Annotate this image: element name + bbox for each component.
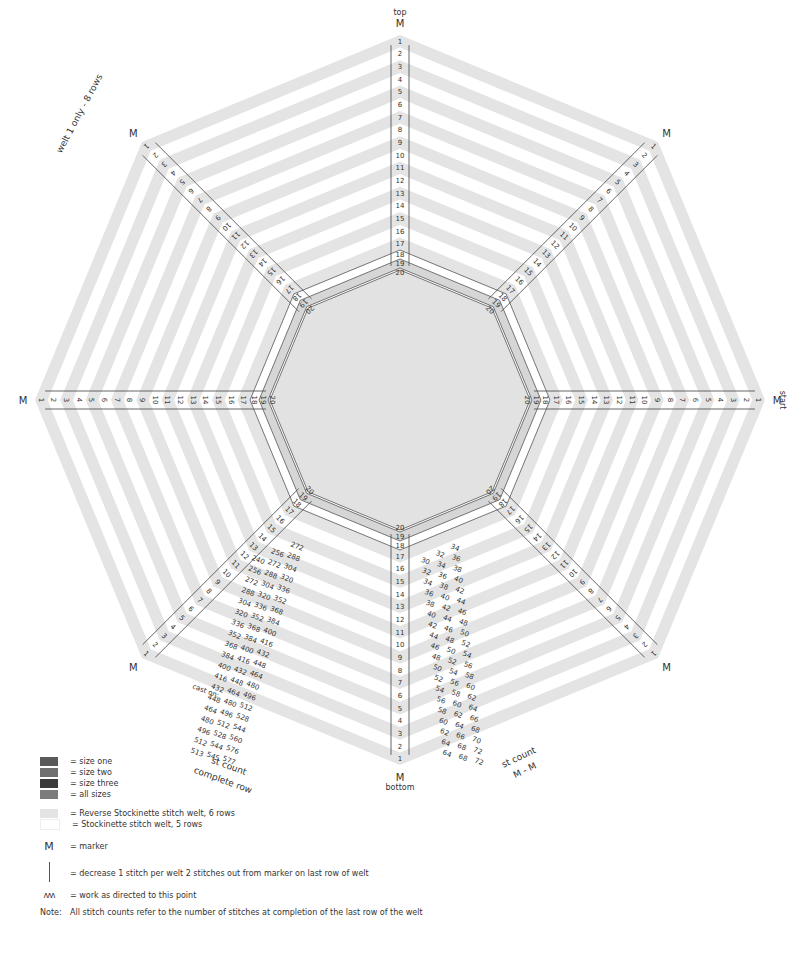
size-label: = size one: [70, 757, 112, 766]
row-number: 19: [396, 260, 405, 268]
row-number: 6: [398, 101, 403, 109]
marker-label: M: [396, 18, 405, 29]
st-count-mm-value: 68: [456, 742, 467, 753]
st-count-complete-value: 576: [225, 744, 241, 757]
row-number: 3: [398, 63, 402, 71]
row-number: 4: [398, 717, 403, 725]
welt-row: = Reverse Stockinette stitch welt, 6 row…: [40, 808, 423, 819]
st-count-mm-value: 64: [441, 748, 453, 759]
st-count-complete-value: 528: [235, 712, 250, 724]
row-number: 1: [754, 398, 762, 402]
row-number: 11: [396, 164, 405, 172]
row-number: 3: [729, 398, 737, 402]
row-number: 2: [742, 398, 750, 402]
row-number: 8: [398, 126, 402, 134]
marker-label: M: [662, 662, 671, 673]
size-label: = size three: [70, 779, 118, 788]
row-number: 12: [176, 396, 184, 405]
row-number: 16: [564, 396, 572, 405]
row-number: 20: [523, 396, 531, 405]
arrowheads-icon: ʌʌʌ: [40, 891, 58, 900]
size-swatch: [40, 768, 58, 777]
row-number: 5: [398, 88, 402, 96]
size-row: = size three: [40, 778, 423, 789]
row-number: 11: [628, 396, 636, 405]
work-to-label: = work as directed to this point: [70, 891, 196, 900]
size-row: = all sizes: [40, 789, 423, 800]
row-number: 4: [398, 76, 403, 84]
legend: = size one= size two= size three= all si…: [40, 756, 423, 917]
row-number: 4: [75, 398, 83, 403]
row-number: 13: [189, 396, 197, 405]
start-label: start: [778, 391, 787, 410]
row-number: 11: [163, 396, 171, 405]
row-number: 12: [396, 177, 405, 185]
row-number: 2: [398, 50, 402, 58]
st-count-complete-value: 464: [203, 704, 219, 717]
row-number: 5: [87, 398, 95, 402]
row-number: 8: [398, 667, 402, 675]
row-number: 2: [398, 743, 402, 751]
row-number: 16: [396, 228, 405, 236]
row-number: 15: [396, 578, 405, 586]
row-number: 6: [691, 398, 699, 403]
row-number: 6: [398, 692, 403, 700]
row-number: 12: [396, 616, 405, 624]
row-number: 9: [138, 398, 146, 402]
st-count-complete-value: 560: [228, 733, 243, 745]
row-number: 6: [100, 398, 108, 403]
row-number: 8: [125, 398, 133, 402]
st-count-complete-value: 448: [206, 693, 221, 705]
decrease-line-icon: [40, 862, 58, 885]
row-number: 14: [396, 591, 405, 599]
st-count-complete-value: 512: [215, 718, 230, 730]
legend-marker: M = marker: [40, 838, 423, 854]
row-number: 14: [396, 202, 405, 210]
legend-decrease: = decrease 1 stitch per welt 2 stitches …: [40, 862, 423, 884]
st-count-complete-value: 512: [193, 736, 208, 748]
row-number: 1: [37, 398, 45, 402]
row-number: 18: [396, 251, 405, 259]
size-row: = size two: [40, 767, 423, 778]
row-number: 20: [268, 396, 276, 405]
row-number: 18: [396, 542, 405, 550]
row-number: 11: [396, 629, 405, 637]
note-text: All stitch counts refer to the number of…: [70, 908, 423, 917]
row-number: 19: [259, 396, 267, 405]
row-number: 3: [398, 730, 402, 738]
row-number: 14: [590, 396, 598, 405]
st-count-complete-value: 496: [196, 725, 212, 738]
row-number: 17: [396, 553, 405, 561]
decrease-label: = decrease 1 stitch per welt 2 stitches …: [70, 869, 369, 878]
row-number: 17: [239, 396, 247, 405]
row-number: 10: [151, 396, 159, 405]
size-label: = size two: [70, 768, 112, 777]
size-row: = size one: [40, 756, 423, 767]
welt1-note: welt 1 only - 8 rows: [54, 72, 104, 155]
st-count-complete-value: 480: [222, 697, 237, 709]
legend-sizes: = size one= size two= size three= all si…: [40, 756, 423, 800]
welt-row: = Stockinette stitch welt, 5 rows: [40, 819, 423, 830]
row-number: 18: [541, 396, 549, 405]
row-number: 20: [396, 269, 405, 277]
row-number: 9: [398, 139, 402, 147]
size-swatch: [40, 779, 58, 788]
row-number: 18: [250, 396, 258, 405]
row-number: 15: [396, 215, 405, 223]
row-number: 17: [552, 396, 560, 405]
row-number: 1: [398, 38, 402, 46]
size-label: = all sizes: [70, 790, 111, 799]
st-count-mm-value: 68: [457, 752, 468, 763]
legend-note: Note: All stitch counts refer to the num…: [40, 908, 423, 917]
row-number: 12: [615, 396, 623, 405]
row-number: 16: [227, 396, 235, 405]
st-count-mm-value: 72: [472, 746, 483, 757]
row-number: 8: [666, 398, 674, 402]
welt-swatch: [40, 819, 60, 830]
st-count-complete-value: 496: [219, 708, 235, 721]
row-number: 3: [62, 398, 70, 402]
marker-label: M: [19, 395, 28, 406]
row-number: 19: [396, 533, 405, 541]
top-label: top: [393, 8, 406, 17]
row-number: 7: [113, 398, 121, 402]
